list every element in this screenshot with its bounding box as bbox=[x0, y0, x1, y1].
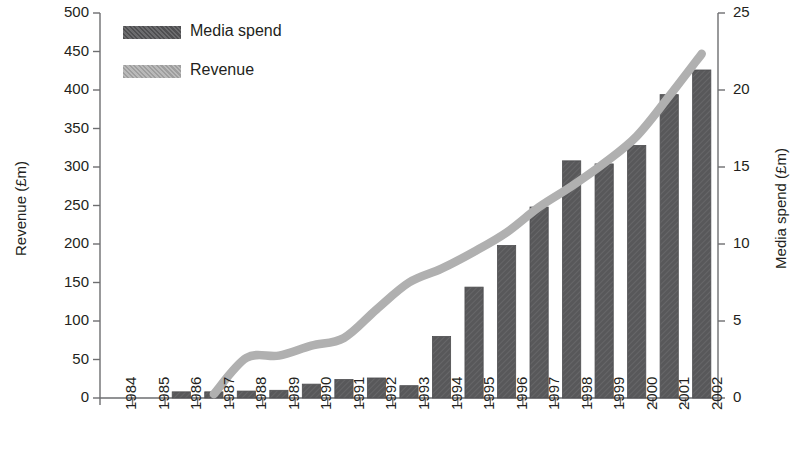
x-axis-tick-label: 1984 bbox=[122, 377, 139, 410]
y-axis-left-tick-label: 100 bbox=[49, 311, 89, 328]
bar-1999 bbox=[595, 164, 613, 398]
x-axis-tick-label: 1987 bbox=[220, 377, 237, 410]
y-axis-right-tick-label: 5 bbox=[733, 311, 773, 328]
x-axis-tick-label: 1986 bbox=[187, 377, 204, 410]
x-axis-tick-label: 1990 bbox=[317, 377, 334, 410]
y-axis-left-tick-label: 200 bbox=[49, 234, 89, 251]
y-axis-left-tick-label: 500 bbox=[49, 3, 89, 20]
x-axis-tick-label: 1995 bbox=[480, 377, 497, 410]
legend-label-media-spend: Media spend bbox=[190, 22, 282, 40]
y-axis-left-tick-label: 0 bbox=[49, 388, 89, 405]
legend-swatch-revenue bbox=[123, 65, 181, 78]
x-axis-tick-label: 1985 bbox=[155, 377, 172, 410]
y-axis-right-tick-label: 25 bbox=[733, 3, 773, 20]
y-axis-right-tick-label: 10 bbox=[733, 234, 773, 251]
x-axis-tick-label: 2002 bbox=[708, 377, 725, 410]
y-axis-left-tick-label: 150 bbox=[49, 273, 89, 290]
y-axis-right-tick-label: 15 bbox=[733, 157, 773, 174]
x-axis-tick-label: 1992 bbox=[382, 377, 399, 410]
bar-series-media-spend bbox=[172, 70, 711, 398]
x-axis-tick-label: 1993 bbox=[415, 377, 432, 410]
chart-container: Revenue (£m) Media spend (£m) 5004504003… bbox=[0, 0, 800, 451]
bar-1996 bbox=[497, 246, 515, 398]
bar-1997 bbox=[530, 207, 548, 398]
y-axis-left-tick-label: 350 bbox=[49, 119, 89, 136]
bar-2000 bbox=[628, 145, 646, 398]
bar-1998 bbox=[563, 161, 581, 398]
legend-swatch-media-spend bbox=[123, 26, 181, 39]
y-axis-left-tick-label: 250 bbox=[49, 196, 89, 213]
x-axis-tick-label: 1997 bbox=[545, 377, 562, 410]
x-axis-tick-label: 2001 bbox=[675, 377, 692, 410]
x-axis-tick-label: 2000 bbox=[643, 377, 660, 410]
x-axis-tick-label: 1989 bbox=[285, 377, 302, 410]
x-axis-tick-label: 1991 bbox=[350, 377, 367, 410]
y-axis-left-tick-label: 450 bbox=[49, 42, 89, 59]
x-axis-tick-label: 1988 bbox=[252, 377, 269, 410]
x-axis-tick-label: 1996 bbox=[513, 377, 530, 410]
y-axis-left-tick-label: 50 bbox=[49, 350, 89, 367]
bar-2002 bbox=[693, 70, 711, 398]
y-axis-right-ticks bbox=[718, 13, 725, 398]
y-axis-left-tick-label: 400 bbox=[49, 80, 89, 97]
bar-2001 bbox=[660, 95, 678, 398]
x-axis-tick-label: 1998 bbox=[578, 377, 595, 410]
x-axis-tick-label: 1999 bbox=[610, 377, 627, 410]
legend-label-revenue: Revenue bbox=[190, 61, 254, 79]
y-axis-left-ticks bbox=[93, 13, 100, 398]
x-axis-tick-label: 1994 bbox=[448, 377, 465, 410]
y-axis-right-tick-label: 20 bbox=[733, 80, 773, 97]
y-axis-right-tick-label: 0 bbox=[733, 388, 773, 405]
y-axis-left-tick-label: 300 bbox=[49, 157, 89, 174]
